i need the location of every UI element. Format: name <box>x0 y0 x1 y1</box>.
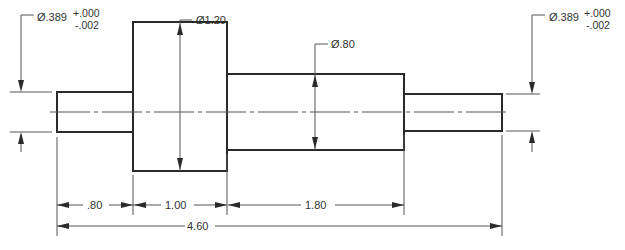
arrow-up-icon <box>529 131 535 143</box>
arrow-right-icon <box>121 202 133 208</box>
arrow-left-icon <box>57 202 69 208</box>
arrow-right-icon <box>215 202 227 208</box>
overall-length-label: 4.60 <box>187 220 208 232</box>
overall-length-dimension <box>57 223 502 229</box>
arrow-right-icon <box>490 223 502 229</box>
left-shaft-diameter-dimension <box>10 15 52 152</box>
arrow-left-icon <box>57 223 69 229</box>
right-shaft-diameter-dimension <box>506 15 545 152</box>
arrow-down-icon <box>177 158 183 170</box>
arrow-up-icon <box>18 132 24 144</box>
right-shaft-tolerance-upper: +.000 <box>584 7 611 19</box>
arrow-up-icon <box>177 23 183 35</box>
middle-cylinder-diameter-dimension <box>312 44 328 150</box>
shaft-drawing: Ø.389 +.000 -.002 Ø1.20 Ø.80 Ø.389 +.000… <box>0 0 625 250</box>
left-shaft-tolerance-lower: -.002 <box>75 19 99 31</box>
left-shaft-tolerance-upper: +.000 <box>73 7 100 19</box>
arrow-down-icon <box>529 82 535 94</box>
right-shaft-tolerance-lower: -.002 <box>586 19 610 31</box>
arrow-right-icon <box>392 202 404 208</box>
middle-cylinder-length-label: 1.80 <box>305 199 326 211</box>
left-shaft-length-label: .80 <box>87 199 102 211</box>
left-shaft-diameter-label: Ø.389 <box>37 11 67 23</box>
arrow-up-icon <box>312 75 318 87</box>
shaft-outline <box>57 22 502 171</box>
middle-cylinder-diameter-label: Ø.80 <box>331 38 355 50</box>
large-cylinder-diameter-label: Ø1.20 <box>196 14 226 26</box>
large-cylinder-length-label: 1.00 <box>165 199 186 211</box>
large-cylinder-diameter-dimension <box>177 20 192 171</box>
arrow-down-icon <box>312 137 318 149</box>
right-shaft-diameter-label: Ø.389 <box>549 11 579 23</box>
arrow-left-icon <box>134 202 146 208</box>
arrow-down-icon <box>18 80 24 92</box>
arrow-left-icon <box>228 202 240 208</box>
